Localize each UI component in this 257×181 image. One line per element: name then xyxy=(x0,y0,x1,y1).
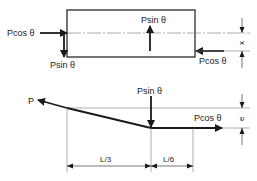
eccentricity-dim-label: e xyxy=(237,116,246,121)
tendon-inclined-segment xyxy=(67,108,151,128)
span-right-label: L/6 xyxy=(163,155,175,164)
prestress-force-diagram: Pcos θ Psin θ Psin θ Pcos θ x P Pcos θ P… xyxy=(0,0,257,181)
beam-segment xyxy=(67,10,195,57)
bottom-figure: P Pcos θ Psin θ e L/3 L/6 xyxy=(28,86,250,172)
tendon-force-arrow-icon xyxy=(38,100,67,108)
right-axial-label: Pcos θ xyxy=(194,113,222,123)
center-transverse-label: Psin θ xyxy=(141,15,166,25)
left-transverse-label: Psin θ xyxy=(50,60,75,70)
left-axial-label: Pcos θ xyxy=(7,28,35,38)
span-left-label: L/3 xyxy=(100,155,112,164)
right-axial-label: Pcos θ xyxy=(199,56,227,66)
deviation-force-label: Psin θ xyxy=(137,86,162,96)
top-figure: Pcos θ Psin θ Psin θ Pcos θ x xyxy=(7,10,250,70)
tendon-force-label: P xyxy=(28,96,34,106)
offset-dim-label: x xyxy=(237,41,246,45)
